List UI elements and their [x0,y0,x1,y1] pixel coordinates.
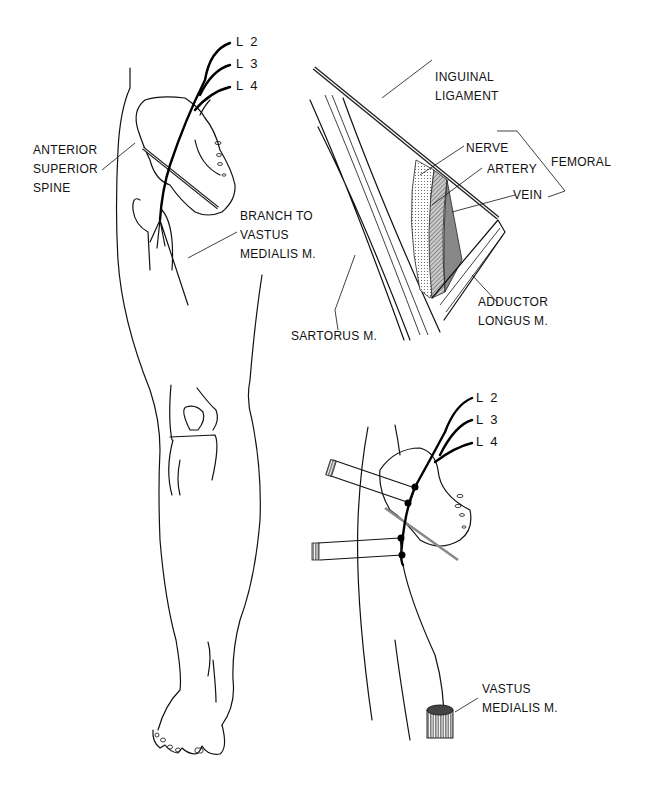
full-leg-panel [102,43,262,754]
vastus-medialis-label: VASTUS MEDIALIS M. [482,680,558,718]
stim-root-label-l4: L 4 [476,432,500,451]
leg-outline-lateral [117,68,181,730]
nerve-label: NERVE [466,139,509,158]
artery-label: ARTERY [487,160,537,179]
branch-label: BRANCH TO VASTUS MEDIALIS M. [240,207,316,264]
root-label-l4: L 4 [236,76,260,95]
sartorius-label: SARTORUS M. [291,327,377,346]
vein-label: VEIN [513,186,542,205]
adductor-longus-label: ADDUCTOR LONGUS M. [478,293,548,331]
stim-root-label-l3: L 3 [476,410,500,429]
root-label-l2: L 2 [236,32,260,51]
root-label-l3: L 3 [236,54,260,73]
femoral-label: FEMORAL [551,153,611,172]
asis-label: ANTERIOR SUPERIOR SPINE [33,141,98,198]
nerve-stimulation-panel [312,398,478,740]
leg-outline-medial [222,275,262,725]
inguinal-ligament-label: INGUINAL LIGAMENT [435,68,499,106]
stim-root-label-l2: L 2 [476,388,500,407]
